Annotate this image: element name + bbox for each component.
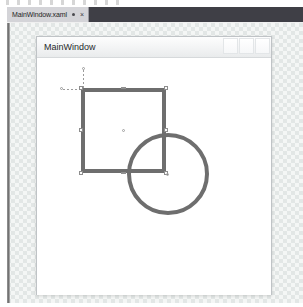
unsaved-dot-icon (72, 13, 75, 16)
document-tab-strip: MainWindow.xaml × (7, 7, 303, 22)
shape-canvas[interactable] (37, 58, 271, 295)
preview-window-titlebar: MainWindow (37, 37, 271, 58)
resize-handle-top-center[interactable] (121, 87, 126, 89)
resize-handle-top-left[interactable] (79, 86, 83, 90)
preview-window-client-area[interactable] (37, 58, 271, 295)
designer-bottom-edge (7, 303, 303, 307)
selection-adorner-layer (37, 58, 271, 295)
resize-handle-middle-left[interactable] (79, 128, 83, 132)
margin-guide-horizontal-cap[interactable] (60, 87, 63, 90)
tab-label: MainWindow.xaml (12, 7, 67, 22)
resize-handle-bottom-center[interactable] (121, 172, 126, 174)
designer-left-border (7, 23, 10, 307)
resize-handle-bottom-left[interactable] (79, 171, 83, 175)
resize-handle-top-right[interactable] (164, 86, 168, 90)
designer-surface[interactable]: MainWindow (7, 23, 303, 307)
close-icon[interactable]: × (80, 7, 84, 22)
center-indicator-icon (122, 129, 125, 132)
preview-window-title: MainWindow (44, 37, 96, 57)
ellipse-center-indicator-icon (166, 173, 169, 176)
design-preview-window[interactable]: MainWindow (36, 36, 272, 295)
designer-screen: MainWindow.xaml × MainWindow (0, 0, 303, 307)
toolbar-sliver (0, 0, 303, 7)
tab-mainwindow-xaml[interactable]: MainWindow.xaml × (7, 7, 89, 22)
maximize-button[interactable] (239, 38, 254, 54)
minimize-button[interactable] (223, 38, 238, 54)
margin-guide-vertical (83, 70, 84, 88)
toolbar-icons-row (6, 0, 126, 5)
window-controls (223, 38, 270, 54)
margin-guide-vertical-cap[interactable] (82, 67, 85, 70)
resize-handle-middle-right[interactable] (164, 128, 168, 132)
close-button[interactable] (255, 38, 270, 54)
